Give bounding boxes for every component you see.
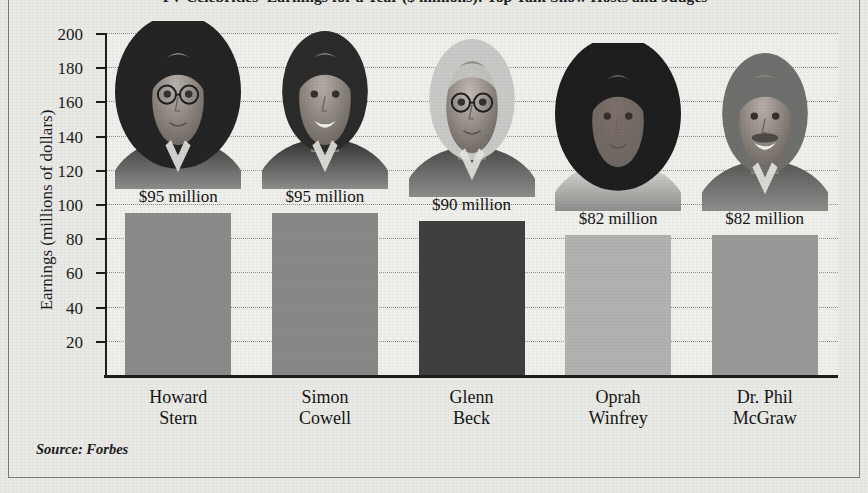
oprah-winfrey-photo [555,43,681,211]
bar-oprah-winfrey [565,235,671,375]
x-label-3-line-1: Winfrey [588,408,647,429]
x-label-2-line-0: Glenn [450,387,494,408]
y-tick-120: 120 [96,170,105,172]
y-tick-label-140: 140 [58,128,84,148]
y-tick-label-100: 100 [58,196,84,216]
y-tick-60: 60 [96,272,105,274]
x-label-1-line-0: Simon [299,387,351,408]
x-label-3-line-0: Oprah [588,387,647,408]
y-tick-40: 40 [96,307,105,309]
y-tick-140: 140 [96,136,105,138]
y-tick-label-40: 40 [66,299,83,319]
source-note: Source: Forbes [36,441,128,458]
y-axis-line [105,33,107,375]
y-tick-80: 80 [96,238,105,240]
x-label-2: GlennBeck [450,387,494,429]
y-tick-180: 180 [96,67,105,69]
y-tick-label-180: 180 [58,59,84,79]
x-label-3: OprahWinfrey [588,387,647,429]
bar-glenn-beck [419,221,525,375]
plot-area: 20406080100120140160180200 [105,33,838,375]
y-tick-label-200: 200 [58,25,84,45]
x-label-2-line-1: Beck [450,408,494,429]
y-tick-label-60: 60 [66,264,83,284]
y-tick-label-120: 120 [58,162,84,182]
data-label-4: $82 million [725,209,804,229]
x-label-0: HowardStern [149,387,207,429]
bar-dr-phil-mcgraw [712,235,818,375]
y-tick-label-160: 160 [58,93,84,113]
dr-phil-mcgraw-photo [702,43,828,211]
simon-cowell-photo [262,21,388,189]
x-axis-line [104,375,838,378]
y-tick-200: 200 [96,33,105,35]
howard-stern-photo [115,21,241,189]
data-label-1: $95 million [285,187,364,207]
data-label-3: $82 million [579,209,658,229]
x-label-0-line-0: Howard [149,387,207,408]
bar-howard-stern [125,213,231,375]
data-label-0: $95 million [139,187,218,207]
y-tick-20: 20 [96,341,105,343]
glenn-beck-photo [409,29,535,197]
x-label-1: SimonCowell [299,387,351,429]
x-label-4-line-0: Dr. Phil [733,387,797,408]
y-tick-label-80: 80 [66,230,83,250]
y-tick-100: 100 [96,204,105,206]
x-label-0-line-1: Stern [149,408,207,429]
chart-figure: TV Celebrities' Earnings for a Year ($ m… [0,0,868,493]
x-label-1-line-1: Cowell [299,408,351,429]
x-label-4-line-1: McGraw [733,408,797,429]
y-tick-label-20: 20 [66,333,83,353]
x-label-4: Dr. PhilMcGraw [733,387,797,429]
y-axis-title: Earnings (millions of dollars) [37,45,57,375]
y-tick-160: 160 [96,101,105,103]
data-label-2: $90 million [432,195,511,215]
bar-simon-cowell [272,213,378,375]
chart-title: TV Celebrities' Earnings for a Year ($ m… [0,0,868,6]
